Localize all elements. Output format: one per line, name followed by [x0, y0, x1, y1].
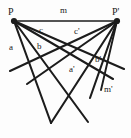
label-b: b [37, 42, 42, 51]
point-P [11, 18, 17, 24]
label-P-prime: P' [112, 7, 119, 17]
label-a: a [9, 43, 13, 52]
geometry-diagram: P P' m c c' a b a' b' m' [0, 0, 131, 138]
label-a-prime: a' [69, 65, 75, 74]
label-c-prime: c' [74, 27, 80, 36]
segments-group [10, 21, 124, 123]
label-b-prime: b' [95, 55, 101, 64]
label-c: c [39, 26, 43, 35]
point-Pp [114, 18, 120, 24]
figure-canvas [0, 0, 131, 138]
label-P: P [8, 7, 14, 17]
label-m: m [60, 6, 67, 15]
label-m-prime: m' [104, 85, 113, 94]
